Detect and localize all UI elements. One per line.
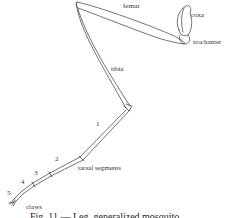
trochanter-label: trochanter [193, 38, 221, 46]
tarsal-segments-label: tarsal segments [78, 164, 121, 172]
tibia-shape [76, 3, 130, 108]
tarsal-number-2: 2 [55, 155, 59, 163]
tibia-label: tibia [111, 65, 123, 73]
claws-label: claws [26, 203, 42, 211]
tarsus-5-shape [14, 191, 23, 201]
tarsus-1-shape [80, 110, 130, 160]
figure-caption: Fig. 11 — Leg, generalized mosquito [30, 211, 179, 218]
claws-shape [9, 199, 16, 206]
tarsal-number-3: 3 [34, 169, 38, 177]
coxa-shape [177, 6, 192, 36]
tarsal-number-5: 5 [7, 189, 11, 197]
femur-label: femur [123, 2, 140, 10]
tarsal-number-4: 4 [21, 178, 25, 186]
mosquito-leg-diagram: femur coxa trochanter tibia 1 2 3 4 5 ta… [0, 0, 230, 218]
coxa-label: coxa [191, 11, 204, 19]
tarsal-number-1: 1 [96, 120, 100, 128]
leg-drawing [0, 0, 230, 218]
